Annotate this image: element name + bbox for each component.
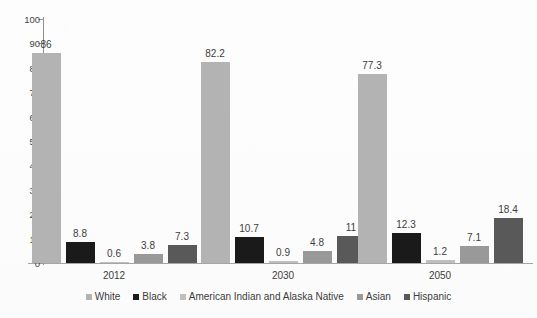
bar (168, 245, 197, 263)
x-axis-group-label: 2012 (103, 270, 125, 281)
legend-label: American Indian and Alaska Native (189, 291, 344, 302)
x-axis-group-label: 2030 (272, 270, 294, 281)
bar (66, 242, 95, 263)
legend-label: Hispanic (413, 291, 451, 302)
legend-swatch-icon (357, 294, 363, 300)
bar (100, 262, 129, 264)
bar-value-label: 4.8 (310, 237, 324, 248)
chart-page: 1009080706050403020100 868.80.63.87.382.… (0, 0, 537, 318)
legend-item[interactable]: American Indian and Alaska Native (180, 291, 344, 302)
bar-value-label: 3.8 (141, 240, 155, 251)
chart-legend: WhiteBlackAmerican Indian and Alaska Nat… (0, 291, 537, 302)
legend-swatch-icon (180, 294, 186, 300)
legend-item[interactable]: Asian (357, 291, 391, 302)
legend-swatch-icon (133, 294, 139, 300)
legend-label: Asian (366, 291, 391, 302)
y-axis-tick-label: 90 (29, 38, 40, 49)
bar-value-label: 7.3 (175, 231, 189, 242)
bar (235, 237, 264, 263)
bar-value-label: 8.8 (73, 228, 87, 239)
bar (494, 218, 523, 263)
legend-swatch-icon (404, 294, 410, 300)
legend-item[interactable]: Hispanic (404, 291, 451, 302)
y-axis-tick-label: 100 (24, 14, 40, 25)
clipped-title-sliver (14, 0, 514, 2)
legend-swatch-icon (86, 294, 92, 300)
bar-value-label: 0.6 (107, 248, 121, 259)
bar-value-label: 7.1 (467, 232, 481, 243)
bar (426, 260, 455, 263)
bar-value-label: 82.2 (205, 48, 224, 59)
bar (32, 53, 61, 263)
bar (303, 251, 332, 263)
bar (134, 254, 163, 263)
bar-value-label: 1.2 (433, 246, 447, 257)
bar (201, 62, 230, 263)
bar-value-label: 18.4 (498, 204, 517, 215)
bar (269, 261, 298, 263)
bar-value-label: 86 (40, 39, 51, 50)
bar (392, 233, 421, 263)
bar-value-label: 10.7 (239, 223, 258, 234)
legend-item[interactable]: White (86, 291, 121, 302)
bar-value-label: 11 (346, 222, 356, 233)
legend-label: Black (142, 291, 166, 302)
bar-value-label: 12.3 (396, 219, 415, 230)
x-axis-group-label: 2050 (429, 270, 451, 281)
bar (460, 246, 489, 263)
legend-label: White (95, 291, 121, 302)
x-axis-baseline (28, 263, 533, 264)
legend-item[interactable]: Black (133, 291, 166, 302)
bar-value-label: 0.9 (276, 247, 290, 258)
bar (358, 74, 387, 263)
bar-value-label: 77.3 (362, 60, 381, 71)
plot-area: 868.80.63.87.382.210.70.94.81177.312.31.… (44, 19, 527, 263)
